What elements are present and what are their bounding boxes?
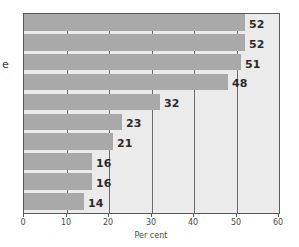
- bar[interactable]: [24, 173, 92, 190]
- x-axis-tick-label: 20: [103, 218, 113, 227]
- bar[interactable]: [24, 74, 228, 91]
- bar-chart: e 52525148322321161614 Per cent 01020304…: [0, 0, 299, 247]
- x-axis-tick-label: 40: [188, 218, 198, 227]
- bar-band: [24, 114, 279, 134]
- x-axis-tick: [23, 213, 24, 217]
- x-axis-tick-label: 50: [231, 218, 241, 227]
- bar[interactable]: [24, 193, 84, 210]
- bar-band: [24, 193, 279, 213]
- x-axis: Per cent 0102030405060: [23, 213, 279, 247]
- bar-band: [24, 54, 279, 74]
- plot-area: 52525148322321161614: [23, 13, 280, 214]
- bar[interactable]: [24, 14, 245, 31]
- x-axis-tick: [236, 213, 237, 217]
- bar-value-label: 48: [232, 78, 247, 90]
- bar-band: [24, 14, 279, 34]
- bar-value-label: 52: [249, 39, 264, 51]
- bar-value-label: 52: [249, 19, 264, 31]
- bars-layer: 52525148322321161614: [24, 14, 279, 213]
- bar[interactable]: [24, 153, 92, 170]
- x-axis-tick-label: 10: [61, 218, 71, 227]
- x-axis-title: Per cent: [23, 231, 279, 240]
- bar-value-label: 16: [96, 158, 111, 170]
- x-axis-tick: [66, 213, 67, 217]
- bar[interactable]: [24, 114, 122, 131]
- bar-band: [24, 153, 279, 173]
- bar-value-label: 14: [88, 198, 103, 210]
- x-axis-tick: [193, 213, 194, 217]
- bar[interactable]: [24, 34, 245, 51]
- x-axis-tick: [151, 213, 152, 217]
- bar-value-label: 21: [117, 138, 132, 150]
- x-axis-tick: [278, 213, 279, 217]
- bar[interactable]: [24, 133, 113, 150]
- bar[interactable]: [24, 94, 160, 111]
- x-axis-tick-label: 30: [146, 218, 156, 227]
- x-axis-tick-label: 60: [273, 218, 283, 227]
- bar-band: [24, 34, 279, 54]
- x-axis-tick-label: 0: [20, 218, 25, 227]
- bar-band: [24, 133, 279, 153]
- bar-value-label: 16: [96, 178, 111, 190]
- x-axis-tick: [108, 213, 109, 217]
- category-axis-clipped-label: e: [2, 58, 9, 71]
- bar-value-label: 32: [164, 98, 179, 110]
- bar[interactable]: [24, 54, 241, 71]
- bar-band: [24, 173, 279, 193]
- bar-value-label: 23: [126, 118, 141, 130]
- bar-band: [24, 94, 279, 114]
- bar-value-label: 51: [245, 59, 260, 71]
